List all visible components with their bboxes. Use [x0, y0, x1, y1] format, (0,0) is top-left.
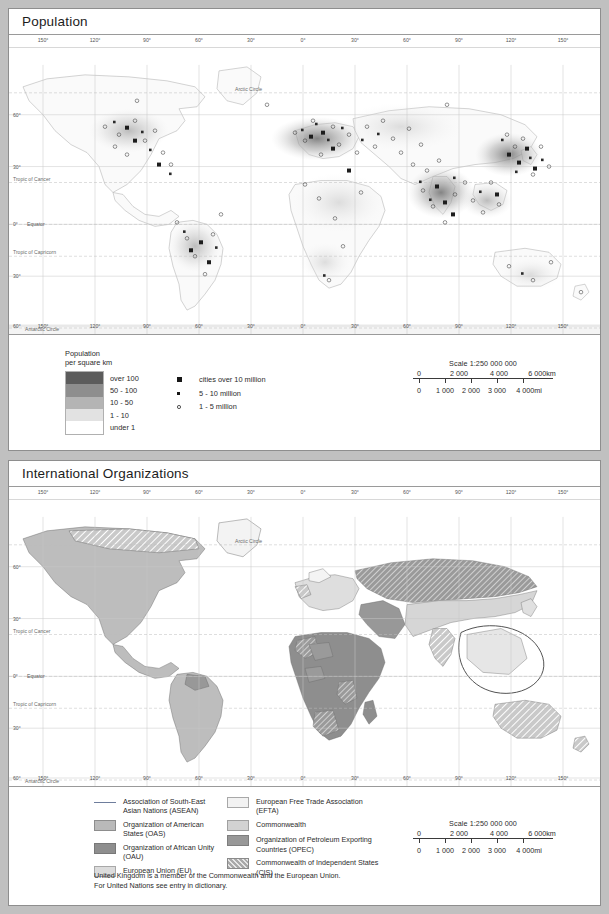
organizations-legend-right-column: European Free Trade Association (EFTA) C…: [227, 797, 387, 881]
svg-text:Equator: Equator: [27, 221, 45, 227]
lon-label: 30°: [351, 775, 359, 781]
lon-label: 90°: [143, 489, 151, 495]
density-label: 50 - 100: [110, 386, 137, 395]
lon-label: 60°: [403, 489, 411, 495]
svg-text:30°: 30°: [13, 725, 21, 731]
lon-label: 60°: [195, 775, 203, 781]
lon-label: 60°: [195, 489, 203, 495]
scale-km-labels: 0 2 000 4 000 6 000km: [413, 829, 553, 838]
legend-label: European Free Trade Association (EFTA): [256, 797, 387, 815]
legend-label: Organization of Petroleum Exporting Coun…: [256, 835, 387, 853]
svg-text:Arctic Circle: Arctic Circle: [235, 86, 262, 92]
scale-km-tick: 2 000: [450, 369, 468, 378]
scale-mi-tick: 2 000: [462, 846, 480, 855]
density-swatch: [66, 409, 103, 421]
scale-km-tick: 0: [417, 829, 421, 838]
atlas-page: Population: [0, 0, 609, 914]
population-legend: Population per square km over 100 50 - 1…: [9, 335, 600, 450]
scale-mi-tick: 0: [417, 386, 421, 395]
legend-item-oau: Organization of African Unity (OAU): [94, 843, 224, 861]
legend-item: 10 - 50: [66, 397, 103, 409]
lon-label: 120°: [506, 323, 517, 329]
longitude-axis-bottom-population: 150° 120° 90° 60° 30° 0° 30° 60° 90° 120…: [9, 323, 600, 335]
lon-label: 60°: [403, 323, 411, 329]
lon-label: 150°: [558, 775, 569, 781]
city-size-legend: cities over 10 million 5 - 10 million 1 …: [177, 373, 266, 414]
legend-item-efta: European Free Trade Association (EFTA): [227, 797, 387, 815]
city-label: 5 - 10 million: [199, 389, 241, 398]
population-density-swatches: over 100 50 - 100 10 - 50 1 - 10: [65, 371, 104, 435]
lon-label: 0°: [301, 37, 306, 43]
svg-text:0°: 0°: [13, 221, 18, 227]
lon-label: 120°: [506, 489, 517, 495]
density-swatch: [66, 397, 103, 409]
scale-title: Scale 1:250 000 000: [413, 359, 553, 368]
lon-label: 30°: [351, 37, 359, 43]
svg-text:Arctic Circle: Arctic Circle: [235, 538, 262, 544]
lon-label: 30°: [351, 489, 359, 495]
city-label: cities over 10 million: [199, 375, 266, 384]
city-over-10m-icon: [177, 377, 199, 382]
legend-item-oas: Organization of American States (OAS): [94, 820, 224, 838]
legend-item: 50 - 100: [66, 384, 103, 396]
international-organizations-panel: International Organizations: [8, 460, 601, 906]
lon-label: 120°: [90, 37, 101, 43]
density-swatch: [66, 384, 103, 396]
legend-item-opec: Organization of Petroleum Exporting Coun…: [227, 835, 387, 853]
lon-label: 90°: [455, 775, 463, 781]
lon-label: 120°: [90, 323, 101, 329]
scale-mi-tick: 0: [417, 846, 421, 855]
lon-label: 90°: [143, 37, 151, 43]
cis-swatch: [227, 858, 249, 869]
svg-text:30°: 30°: [13, 164, 21, 170]
longitude-axis-population: 150° 120° 90° 60° 30° 0° 30° 60° 90° 120…: [9, 35, 600, 48]
svg-text:Tropic of Cancer: Tropic of Cancer: [13, 628, 51, 634]
lon-label: 150°: [558, 37, 569, 43]
population-map-canvas: 60° 30° 0° Equator 30° 60° Tropic of Can…: [9, 35, 600, 334]
lon-label: 150°: [38, 37, 49, 43]
footnote-line-1: United Kingdom is a member of the Common…: [94, 871, 341, 881]
lon-label: 0°: [301, 323, 306, 329]
lon-label: 150°: [558, 323, 569, 329]
scale-axis: [413, 838, 553, 845]
lon-label: 30°: [247, 775, 255, 781]
legend-label: Commonwealth: [256, 820, 306, 829]
organizations-legend: Association of South-East Asian Nations …: [9, 787, 600, 905]
scale-mi-tick: 1 000: [436, 846, 454, 855]
organizations-map-canvas: 60° 30° 0° Equator 30° 60° Tropic of Can…: [9, 487, 600, 786]
lon-label: 60°: [403, 775, 411, 781]
scale-title: Scale 1:250 000 000: [413, 819, 553, 828]
lon-label: 120°: [506, 775, 517, 781]
scale-mi-tick: 4 000mi: [516, 846, 542, 855]
population-map[interactable]: 60° 30° 0° Equator 30° 60° Tropic of Can…: [9, 35, 600, 335]
scale-bar-organizations: Scale 1:250 000 000 0 2 000 4 000 6 000k…: [413, 819, 553, 855]
lon-label: 90°: [455, 489, 463, 495]
lon-label: 150°: [38, 323, 49, 329]
density-swatch: [66, 421, 103, 433]
lon-label: 150°: [38, 775, 49, 781]
legend-item: 5 - 10 million: [177, 387, 266, 401]
scale-km-tick: 2 000: [450, 829, 468, 838]
page-title-organizations: International Organizations: [9, 461, 600, 487]
oas-swatch: [94, 820, 116, 831]
lon-label: 120°: [90, 775, 101, 781]
lon-label: 0°: [301, 489, 306, 495]
svg-text:Tropic of Capricorn: Tropic of Capricorn: [13, 249, 56, 255]
lon-label: 0°: [301, 775, 306, 781]
scale-km-tick: 4 000: [490, 829, 508, 838]
efta-swatch: [227, 797, 249, 808]
organizations-map[interactable]: 60° 30° 0° Equator 30° 60° Tropic of Can…: [9, 487, 600, 787]
lon-label: 60°: [195, 323, 203, 329]
city-5-10m-icon: [177, 392, 199, 395]
lon-label: 90°: [455, 37, 463, 43]
legend-label: Organization of American States (OAS): [123, 820, 224, 838]
density-label: under 1: [110, 423, 135, 432]
scale-mi-tick: 3 000: [488, 386, 506, 395]
scale-km-tick: 6 000km: [528, 829, 556, 838]
oau-swatch: [94, 843, 116, 854]
organizations-legend-left-column: Association of South-East Asian Nations …: [94, 797, 224, 881]
commonwealth-swatch: [227, 820, 249, 831]
svg-text:Equator: Equator: [27, 673, 45, 679]
scale-mi-tick: 3 000: [488, 846, 506, 855]
legend-item: under 1: [66, 421, 103, 433]
